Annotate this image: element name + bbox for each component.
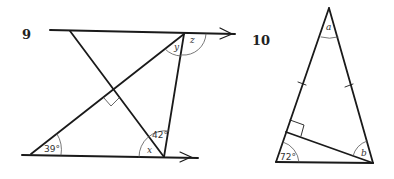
transversal-line-1 xyxy=(70,31,164,157)
angle-label-b: b xyxy=(361,148,367,158)
angle-label-a: a xyxy=(326,22,331,32)
top-parallel-line xyxy=(50,30,235,34)
base xyxy=(276,162,373,163)
angle-arc-a xyxy=(321,37,338,38)
angle-label-42: 42° xyxy=(152,130,168,140)
figure-10-number: 10 xyxy=(252,33,270,48)
angle-label-z: z xyxy=(189,35,195,45)
angle-label-y: y xyxy=(173,42,180,52)
right-side xyxy=(329,8,373,163)
angle-label-72: 72° xyxy=(280,152,296,162)
angle-label-x: x xyxy=(147,145,152,155)
bottom-parallel-line xyxy=(22,155,198,158)
left-side xyxy=(276,8,329,162)
right-angle-mark xyxy=(104,98,119,106)
figure-10 xyxy=(276,8,373,163)
perpendicular-line xyxy=(286,132,373,163)
geometry-diagram: 9 y z 39° 42° x 10 a 72° b xyxy=(0,0,394,179)
angle-label-39: 39° xyxy=(44,144,60,154)
figure-9 xyxy=(22,28,235,162)
figure-9-number: 9 xyxy=(22,27,31,42)
